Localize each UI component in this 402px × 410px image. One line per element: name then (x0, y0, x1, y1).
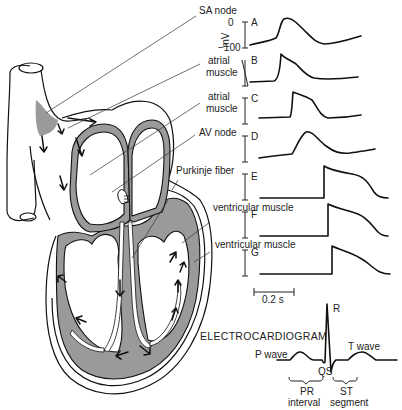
trace-g (260, 246, 390, 274)
label-atrial-muscle-2b: muscle (206, 103, 238, 114)
label-sa-node: SA node (199, 5, 237, 16)
trace-b (250, 54, 358, 82)
trace-label-a: A (251, 17, 258, 28)
action-potential-traces (250, 18, 390, 274)
ecg-qs-label: QS (318, 366, 333, 377)
axis-tick-0: 0 (228, 17, 234, 28)
label-av-node: AV node (199, 127, 237, 138)
voltage-axis: 0 −100 mV (218, 17, 241, 53)
trace-letters: A B C D E F G (251, 17, 259, 258)
trace-label-e: E (251, 171, 258, 182)
right-atrium-chamber (76, 132, 124, 225)
trace-label-c: C (251, 93, 258, 104)
ecg-r-label: R (333, 303, 340, 314)
ecg-pr-label: PR (300, 386, 314, 397)
scale-bar-label: 0.2 s (262, 294, 284, 305)
arrow-icon (60, 176, 67, 190)
ecg-p-wave-label: P wave (255, 349, 288, 360)
ecg-segment-label: segment (330, 397, 369, 408)
trace-label-b: B (251, 55, 258, 66)
trace-e (260, 166, 388, 198)
trace-label-d: D (251, 131, 258, 142)
pr-brace (289, 377, 323, 384)
electrocardiogram: ELECTROCARDIOGRAM P wave R QS T wave PR … (200, 303, 397, 408)
label-atrial-muscle-2a: atrial (208, 91, 230, 102)
cardiac-conduction-diagram: SA node atrial muscle atrial muscle AV n… (0, 0, 402, 410)
trace-a (250, 18, 361, 45)
trace-label-g: G (251, 247, 259, 258)
arrow-icon (40, 136, 47, 152)
ecg-interval-label: interval (288, 397, 320, 408)
arrow-icon (58, 124, 64, 134)
trace-c (259, 92, 361, 118)
trace-label-f: F (251, 209, 257, 220)
time-scale-bar: 0.2 s (254, 288, 294, 305)
trace-brackets (242, 22, 248, 276)
label-atrial-muscle-1b: muscle (206, 67, 238, 78)
ecg-title: ELECTROCARDIOGRAM (200, 330, 327, 342)
ecg-t-wave-label: T wave (348, 341, 380, 352)
trace-d (259, 132, 375, 158)
ecg-st-label: ST (340, 386, 353, 397)
st-brace (333, 377, 357, 384)
heart-illustration (7, 63, 212, 394)
axis-unit: mV (220, 32, 231, 47)
label-atrial-muscle-1a: atrial (208, 55, 230, 66)
label-purkinje-fiber: Purkinje fiber (176, 165, 235, 176)
sa-node-region (36, 100, 58, 136)
